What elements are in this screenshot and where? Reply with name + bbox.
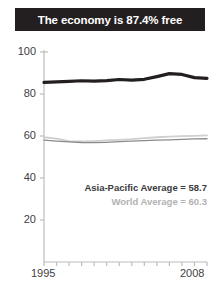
y-axis-tick-label: 60 bbox=[6, 130, 36, 141]
economy-freedom-chart: The economy is 87.4% free 20406080100 19… bbox=[0, 0, 217, 297]
x-axis-tick-label-start: 1995 bbox=[31, 268, 55, 279]
series-line bbox=[44, 135, 207, 141]
y-axis-tick-label: 100 bbox=[6, 46, 36, 57]
annotation-world-average: World Average = 60.3 bbox=[112, 196, 207, 207]
x-axis-tick-label-end: 2008 bbox=[180, 268, 204, 279]
y-axis-tick-label: 80 bbox=[6, 88, 36, 99]
series-lines bbox=[44, 74, 207, 143]
plot-area: 20406080100 1995 2008 bbox=[0, 0, 217, 297]
y-axis-tick-label: 20 bbox=[6, 214, 36, 225]
annotation-regional-average: Asia-Pacific Average = 58.7 bbox=[84, 182, 207, 193]
y-axis-tick-label: 40 bbox=[6, 172, 36, 183]
series-line bbox=[44, 74, 207, 83]
